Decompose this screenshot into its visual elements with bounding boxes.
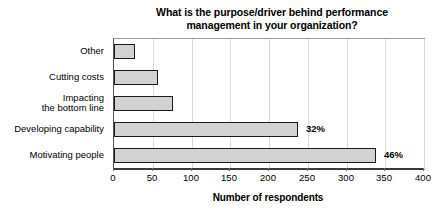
x-axis-tick-label: 250 <box>287 172 327 183</box>
chart-title-line-1: What is the purpose/driver behind perfor… <box>104 6 440 19</box>
x-axis-title: Number of respondents <box>113 192 423 203</box>
x-axis-tick-label: 350 <box>364 172 404 183</box>
x-axis-tick-label: 200 <box>248 172 288 183</box>
x-axis-tick <box>113 168 114 171</box>
bar <box>114 96 173 111</box>
y-axis-label-line: Other <box>0 46 104 57</box>
x-axis-tick <box>423 168 424 171</box>
y-axis-label-line: Motivating people <box>0 150 104 161</box>
x-axis-tick <box>346 168 347 171</box>
x-axis-tick <box>384 168 385 171</box>
bar <box>114 122 298 137</box>
bar <box>114 70 158 85</box>
bar-chart: What is the purpose/driver behind perfor… <box>0 0 448 214</box>
plot-area: 32%46% <box>113 38 425 170</box>
x-axis-tick-label: 300 <box>326 172 366 183</box>
x-axis-tick <box>152 168 153 171</box>
y-axis-label: Motivating people <box>0 150 104 161</box>
x-axis-tick <box>268 168 269 171</box>
y-axis-label: Developing capability <box>0 124 104 135</box>
gridline <box>424 39 425 169</box>
y-axis-label-line: Cutting costs <box>0 72 104 83</box>
bar-value-label: 46% <box>384 149 403 160</box>
bar-value-label: 32% <box>306 123 325 134</box>
y-axis-label-line: the bottom line <box>0 103 104 114</box>
y-axis-label: Cutting costs <box>0 72 104 83</box>
bar-row <box>114 91 424 117</box>
chart-title-line-2: management in your organization? <box>104 19 440 32</box>
y-axis-label-line: Developing capability <box>0 124 104 135</box>
y-axis-label: Impactingthe bottom line <box>0 93 104 114</box>
bar <box>114 44 135 59</box>
bar-row: 46% <box>114 143 424 169</box>
bar-row <box>114 39 424 65</box>
bar-row <box>114 65 424 91</box>
x-axis-tick-label: 0 <box>93 172 133 183</box>
bar-row: 32% <box>114 117 424 143</box>
x-axis-tick-label: 150 <box>209 172 249 183</box>
x-axis-tick <box>229 168 230 171</box>
x-axis-tick-label: 50 <box>132 172 172 183</box>
y-axis-category-labels: OtherCutting costsImpactingthe bottom li… <box>0 38 108 168</box>
plot-inner: 32%46% <box>114 39 424 169</box>
y-axis-label: Other <box>0 46 104 57</box>
x-axis-tick <box>191 168 192 171</box>
chart-title: What is the purpose/driver behind perfor… <box>104 6 440 32</box>
bar <box>114 148 376 163</box>
x-axis-tick-label: 100 <box>171 172 211 183</box>
x-axis-tick-label: 400 <box>403 172 443 183</box>
x-axis-tick <box>307 168 308 171</box>
